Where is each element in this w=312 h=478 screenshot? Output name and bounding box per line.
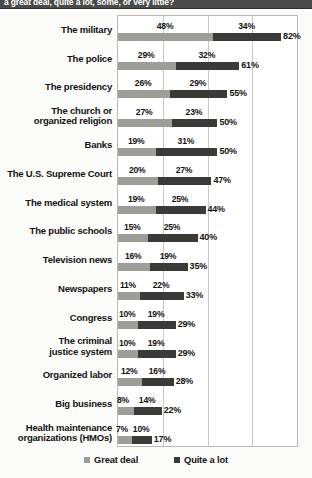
bar-segment-great-deal <box>118 177 158 185</box>
category-label-line: The military <box>0 25 112 36</box>
stacked-bar <box>118 206 206 214</box>
bar-row: The police29%32%61% <box>0 44 312 73</box>
value-label-quite-a-lot: 25% <box>164 223 181 232</box>
category-label-line: Organized labor <box>0 370 112 381</box>
category-label-line: The U.S. Supreme Court <box>0 169 112 180</box>
category-label-line: The presidency <box>0 82 112 93</box>
value-label-quite-a-lot: 19% <box>148 339 165 348</box>
value-label-great-deal: 20% <box>129 166 146 175</box>
value-label-quite-a-lot: 22% <box>153 281 170 290</box>
value-label-quite-a-lot: 16% <box>149 367 166 376</box>
category-label-line: justice system <box>0 347 112 358</box>
bar-segment-quite-a-lot <box>138 321 176 329</box>
value-label-great-deal: 15% <box>124 223 141 232</box>
bar-segment-quite-a-lot <box>148 234 198 242</box>
bar-segment-quite-a-lot <box>176 62 240 70</box>
category-label-line: Newspapers <box>0 284 112 295</box>
value-label-total: 50% <box>219 118 236 127</box>
stacked-bar <box>118 119 217 127</box>
category-label-line: The medical system <box>0 198 112 209</box>
value-label-total: 17% <box>154 435 171 444</box>
bar-segment-great-deal <box>118 350 138 358</box>
bar-segment-quite-a-lot <box>150 263 188 271</box>
bar-row: The church ororganized religion27%23%50% <box>0 101 312 130</box>
bar-segment-quite-a-lot <box>156 148 218 156</box>
category-label: The presidency <box>0 82 112 93</box>
stacked-bar <box>118 90 227 98</box>
value-label-total: 29% <box>178 320 195 329</box>
legend-swatch-icon <box>84 457 90 463</box>
bar-segment-quite-a-lot <box>140 292 184 300</box>
category-label-line: Big business <box>0 399 112 410</box>
value-label-total: 82% <box>283 32 300 41</box>
bar-segment-great-deal <box>118 263 150 271</box>
bar-rows: The military48%34%82%The police29%32%61%… <box>0 12 312 449</box>
stacked-bar <box>118 148 217 156</box>
value-label-great-deal: 11% <box>120 281 136 290</box>
category-label: The public schools <box>0 226 112 237</box>
value-label-great-deal: 48% <box>157 22 174 31</box>
bar-row: Banks19%31%50% <box>0 130 312 159</box>
category-label: Organized labor <box>0 370 112 381</box>
category-label: Television news <box>0 255 112 266</box>
bar-row: The medical system19%25%44% <box>0 188 312 217</box>
category-label: The police <box>0 54 112 65</box>
stacked-bar <box>118 33 281 41</box>
value-label-quite-a-lot: 14% <box>139 396 156 405</box>
category-label: The U.S. Supreme Court <box>0 169 112 180</box>
category-label-line: Banks <box>0 140 112 151</box>
bar-segment-quite-a-lot <box>158 177 212 185</box>
value-label-quite-a-lot: 29% <box>190 79 207 88</box>
bar-row: Health maintenanceorganizations (HMOs)7%… <box>0 418 312 447</box>
legend-item-great: Great deal <box>84 455 138 465</box>
value-label-great-deal: 19% <box>128 195 145 204</box>
bar-segment-quite-a-lot <box>134 407 162 415</box>
value-label-great-deal: 29% <box>138 51 155 60</box>
bar-segment-great-deal <box>118 378 142 386</box>
bar-segment-great-deal <box>118 407 134 415</box>
category-label-line: organized religion <box>0 116 112 127</box>
bar-segment-great-deal <box>118 436 132 444</box>
bar-row: The military48%34%82% <box>0 15 312 44</box>
value-label-great-deal: 16% <box>125 252 142 261</box>
value-label-great-deal: 7% <box>116 425 128 434</box>
stacked-bar <box>118 234 198 242</box>
value-label-quite-a-lot: 27% <box>176 166 193 175</box>
chart-header-bar: a great deal, quite a lot, some, or very… <box>0 0 312 9</box>
bar-segment-great-deal <box>118 321 138 329</box>
category-label-line: Congress <box>0 313 112 324</box>
category-label: Banks <box>0 140 112 151</box>
stacked-bar <box>118 350 176 358</box>
bar-segment-great-deal <box>118 206 156 214</box>
stacked-bar <box>118 407 162 415</box>
bar-row: Big business8%14%22% <box>0 389 312 418</box>
value-label-quite-a-lot: 19% <box>160 252 177 261</box>
category-label: The medical system <box>0 198 112 209</box>
value-label-great-deal: 8% <box>117 396 129 405</box>
bar-segment-quite-a-lot <box>213 33 281 41</box>
value-label-great-deal: 10% <box>119 339 136 348</box>
value-label-quite-a-lot: 32% <box>199 51 216 60</box>
category-label: Newspapers <box>0 284 112 295</box>
bar-segment-quite-a-lot <box>142 378 174 386</box>
legend-item-quite: Quite a lot <box>174 455 228 465</box>
bar-segment-quite-a-lot <box>132 436 152 444</box>
category-label: Big business <box>0 399 112 410</box>
value-label-total: 55% <box>229 89 246 98</box>
bar-row: Newspapers11%22%33% <box>0 274 312 303</box>
legend-label: Great deal <box>94 455 138 465</box>
chart-page: a great deal, quite a lot, some, or very… <box>0 0 312 478</box>
category-label-line: Television news <box>0 255 112 266</box>
category-label: Health maintenanceorganizations (HMOs) <box>0 423 112 444</box>
bar-segment-great-deal <box>118 33 213 41</box>
stacked-bar <box>118 177 211 185</box>
bar-segment-great-deal <box>118 234 148 242</box>
value-label-quite-a-lot: 31% <box>178 137 195 146</box>
value-label-quite-a-lot: 19% <box>148 310 165 319</box>
bar-row: The U.S. Supreme Court20%27%47% <box>0 159 312 188</box>
category-label: The criminaljustice system <box>0 336 112 357</box>
stacked-bar <box>118 321 176 329</box>
category-label: Congress <box>0 313 112 324</box>
value-label-total: 33% <box>186 291 203 300</box>
value-label-quite-a-lot: 23% <box>186 108 203 117</box>
